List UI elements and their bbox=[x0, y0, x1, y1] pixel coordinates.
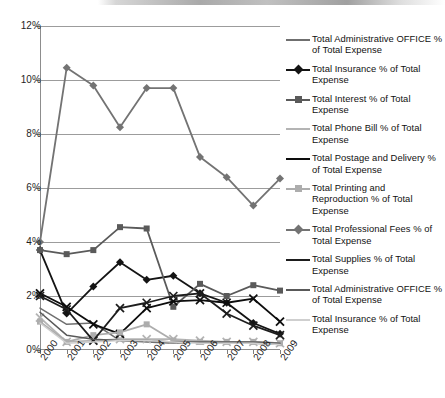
data-point-diamond bbox=[169, 84, 177, 92]
legend-marker-square-icon bbox=[295, 96, 302, 103]
y-tick-label: 4% bbox=[7, 236, 41, 247]
y-tick-label: 10% bbox=[7, 74, 41, 85]
series-layer bbox=[40, 26, 280, 350]
y-tick-label: 2% bbox=[7, 290, 41, 301]
legend-marker-cross-icon bbox=[295, 256, 302, 263]
legend-item[interactable]: Total Administrative OFFICE % of Total E… bbox=[286, 33, 444, 56]
legend-swatch-icon bbox=[286, 183, 310, 195]
series-6 bbox=[36, 64, 284, 246]
legend-item-label: Total Postage and Delivery % of Total Ex… bbox=[312, 152, 444, 175]
legend-marker-cross-icon bbox=[295, 125, 302, 132]
legend-swatch-icon bbox=[286, 153, 310, 165]
legend-item[interactable]: Total Printing and Reproduction % of Tot… bbox=[286, 182, 444, 216]
y-tick-label: 12% bbox=[7, 20, 41, 31]
legend-item-label: Total Printing and Reproduction % of Tot… bbox=[312, 182, 444, 216]
legend-item-label: Total Administrative OFFICE % of Total E… bbox=[312, 283, 444, 306]
legend-line bbox=[286, 319, 310, 321]
legend-swatch-icon bbox=[286, 34, 310, 46]
y-tick-label: 6% bbox=[7, 182, 41, 193]
legend-item-label: Total Phone Bill % of Total Expense bbox=[312, 122, 444, 145]
y-tick-label: 0% bbox=[7, 344, 41, 355]
legend-item[interactable]: Total Supplies % of Total Expense bbox=[286, 253, 444, 276]
data-point-cross bbox=[276, 318, 284, 326]
series-2 bbox=[37, 224, 283, 310]
legend-swatch-icon bbox=[286, 314, 310, 326]
data-point-square bbox=[197, 281, 203, 287]
legend-swatch-icon bbox=[286, 224, 310, 236]
legend-marker-square-icon bbox=[295, 185, 302, 192]
legend-item[interactable]: Total Professional Fees % of Total Expen… bbox=[286, 223, 444, 246]
data-point-square bbox=[277, 288, 283, 294]
plot-area: 2000200120022003200420052006200720082009 bbox=[40, 26, 280, 350]
series-line bbox=[40, 68, 280, 242]
legend-line bbox=[286, 39, 310, 41]
data-point-square bbox=[64, 251, 70, 257]
legend-marker-diamond-icon bbox=[294, 64, 304, 74]
legend-item-label: Total Administrative OFFICE % of Total E… bbox=[312, 33, 444, 56]
data-point-square bbox=[224, 293, 230, 299]
data-point-square bbox=[250, 282, 256, 288]
data-point-square bbox=[144, 321, 150, 327]
expense-line-chart: 2000200120022003200420052006200720082009… bbox=[0, 0, 445, 398]
legend-item[interactable]: Total Insurance % of Total Expense bbox=[286, 313, 444, 336]
legend-swatch-icon bbox=[286, 94, 310, 106]
legend-swatch-icon bbox=[286, 254, 310, 266]
data-point-square bbox=[144, 226, 150, 232]
data-point-cross bbox=[223, 310, 231, 318]
legend-item-label: Total Interest % of Total Expense bbox=[312, 93, 444, 116]
data-point-square bbox=[37, 247, 43, 253]
legend-marker-cross-icon bbox=[295, 155, 302, 162]
chart-legend: Total Administrative OFFICE % of Total E… bbox=[286, 33, 444, 343]
y-tick-label: 8% bbox=[7, 128, 41, 139]
legend-line bbox=[286, 289, 310, 291]
data-point-square bbox=[117, 224, 123, 230]
legend-item[interactable]: Total Insurance % of Total Expense bbox=[286, 63, 444, 86]
legend-swatch-icon bbox=[286, 123, 310, 135]
legend-item-label: Total Professional Fees % of Total Expen… bbox=[312, 223, 444, 246]
legend-marker-diamond-icon bbox=[294, 225, 304, 235]
legend-item-label: Total Insurance % of Total Expense bbox=[312, 313, 444, 336]
legend-item-label: Total Supplies % of Total Expense bbox=[312, 253, 444, 276]
legend-item[interactable]: Total Postage and Delivery % of Total Ex… bbox=[286, 152, 444, 175]
series-4 bbox=[36, 289, 284, 338]
legend-item-label: Total Insurance % of Total Expense bbox=[312, 63, 444, 86]
legend-item[interactable]: Total Interest % of Total Expense bbox=[286, 93, 444, 116]
legend-swatch-icon bbox=[286, 64, 310, 76]
data-point-square bbox=[117, 329, 123, 335]
series-line bbox=[40, 227, 280, 307]
legend-item[interactable]: Total Administrative OFFICE % of Total E… bbox=[286, 283, 444, 306]
legend-swatch-icon bbox=[286, 284, 310, 296]
data-point-square bbox=[90, 247, 96, 253]
legend-item[interactable]: Total Phone Bill % of Total Expense bbox=[286, 122, 444, 145]
